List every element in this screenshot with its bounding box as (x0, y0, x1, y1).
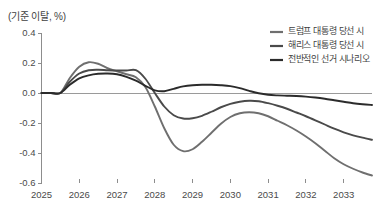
series-line-1 (42, 70, 373, 140)
series-line-2 (42, 73, 373, 105)
x-tick-label: 2026 (69, 189, 90, 200)
x-tick-label: 2027 (106, 189, 127, 200)
chart-legend: 트럼프 대통령 당선 시해리스 대통령 당선 시전반적인 선거 시나리오 (270, 25, 370, 64)
y-tick-label: -0.2 (19, 117, 35, 128)
legend-label-1: 해리스 대통령 당선 시 (288, 39, 364, 50)
series-group (42, 62, 373, 175)
x-tick-label: 2025 (31, 189, 52, 200)
x-axis-tick-group: 202520262027202820292030203120322033 (31, 179, 354, 200)
y-tick-label: 0.0 (22, 87, 35, 98)
y-tick-label: 0.2 (22, 57, 35, 68)
legend-label-0: 트럼프 대통령 당선 시 (288, 25, 364, 36)
y-tick-label: -0.6 (19, 177, 35, 188)
x-tick-label: 2030 (220, 189, 241, 200)
legend-label-2: 전반적인 선거 시나리오 (288, 53, 370, 64)
x-tick-label: 2029 (182, 189, 203, 200)
x-tick-label: 2033 (333, 189, 354, 200)
y-axis-tick-group: 0.40.20.0-0.2-0.4-0.6 (19, 27, 41, 188)
y-tick-label: 0.4 (22, 27, 35, 38)
x-tick-label: 2028 (144, 189, 165, 200)
chart-container: (기준 이탈, %) 0.40.20.0-0.2-0.4-0.6 2025202… (0, 0, 378, 216)
x-tick-label: 2031 (258, 189, 279, 200)
line-chart-plot: 0.40.20.0-0.2-0.4-0.6 202520262027202820… (0, 0, 378, 216)
y-tick-label: -0.4 (19, 147, 35, 158)
series-line-0 (42, 62, 373, 175)
x-tick-label: 2032 (295, 189, 316, 200)
